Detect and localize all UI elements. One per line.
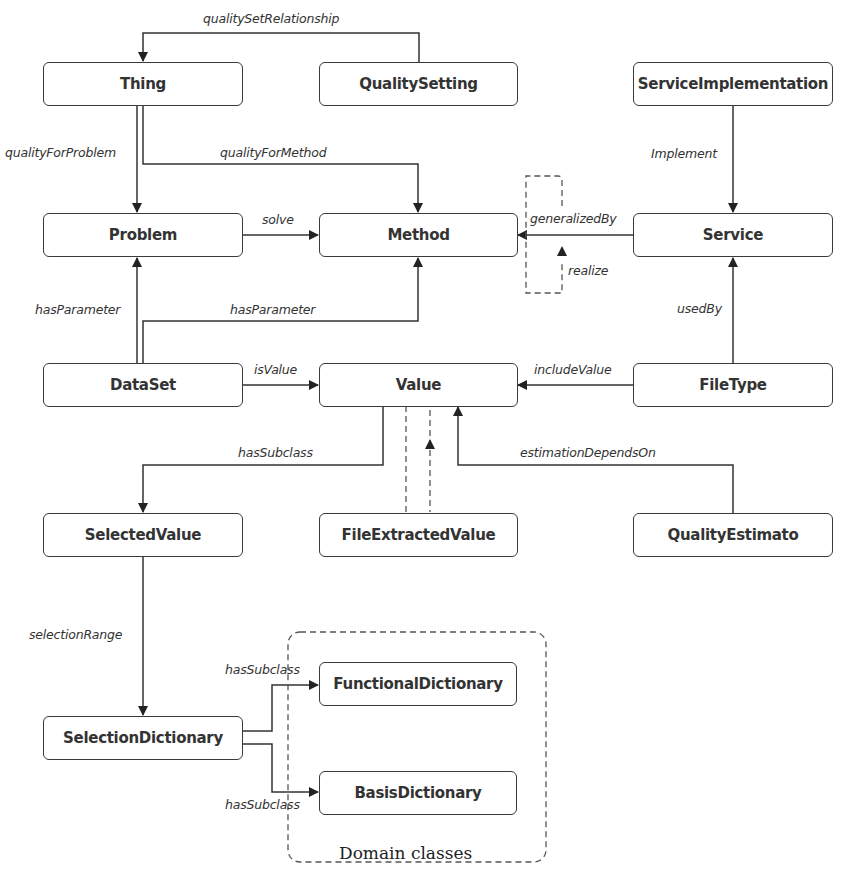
edge-has-subclass-basis bbox=[243, 744, 318, 792]
label-generalized-by: generalizedBy bbox=[530, 211, 617, 226]
label-implement: Implement bbox=[651, 146, 717, 161]
node-file-extracted-value[interactable]: FileExtractedValue bbox=[319, 513, 518, 557]
node-thing[interactable]: Thing bbox=[43, 62, 243, 106]
node-quality-estimato[interactable]: QualityEstimato bbox=[633, 513, 833, 557]
label-selection-range: selectionRange bbox=[29, 627, 122, 642]
label-solve: solve bbox=[262, 212, 294, 227]
node-functional-dictionary[interactable]: FunctionalDictionary bbox=[319, 662, 517, 706]
label-has-parameter-problem: hasParameter bbox=[35, 302, 120, 317]
node-selection-dictionary[interactable]: SelectionDictionary bbox=[43, 716, 243, 760]
label-quality-for-problem: qualityForProblem bbox=[5, 145, 116, 160]
label-used-by: usedBy bbox=[677, 301, 722, 316]
edge-has-subclass-functional bbox=[243, 685, 318, 731]
node-file-type[interactable]: FileType bbox=[633, 363, 833, 407]
domain-classes-label: Domain classes bbox=[339, 843, 472, 863]
node-service[interactable]: Service bbox=[633, 213, 833, 257]
label-has-subclass-functional: hasSubclass bbox=[225, 662, 300, 677]
label-has-parameter-method: hasParameter bbox=[230, 302, 315, 317]
node-value[interactable]: Value bbox=[319, 363, 518, 407]
label-realize: realize bbox=[568, 263, 608, 278]
node-selected-value[interactable]: SelectedValue bbox=[43, 513, 243, 557]
node-quality-setting[interactable]: QualitySetting bbox=[319, 62, 518, 106]
label-quality-for-method: qualityForMethod bbox=[220, 145, 326, 160]
edge-quality-set-relationship bbox=[143, 33, 419, 62]
ontology-diagram: Thing QualitySetting ServiceImplementati… bbox=[0, 0, 854, 888]
label-quality-set-relationship: qualitySetRelationship bbox=[203, 11, 339, 26]
label-estimation-depends-on: estimationDependsOn bbox=[520, 445, 656, 460]
label-has-subclass-basis: hasSubclass bbox=[225, 797, 300, 812]
edge-estimation-depends-on bbox=[458, 407, 733, 513]
node-dataset[interactable]: DataSet bbox=[43, 363, 243, 407]
node-method[interactable]: Method bbox=[319, 213, 518, 257]
label-is-value: isValue bbox=[254, 362, 297, 377]
file-extracted-dashed-link bbox=[406, 403, 430, 512]
file-extracted-arrowhead bbox=[425, 439, 435, 449]
realize-arrowhead bbox=[557, 246, 567, 256]
node-service-implementation[interactable]: ServiceImplementation bbox=[633, 62, 833, 106]
node-basis-dictionary[interactable]: BasisDictionary bbox=[319, 771, 517, 815]
label-include-value: includeValue bbox=[534, 362, 611, 377]
label-has-subclass-selected: hasSubclass bbox=[238, 445, 313, 460]
node-problem[interactable]: Problem bbox=[43, 213, 243, 257]
